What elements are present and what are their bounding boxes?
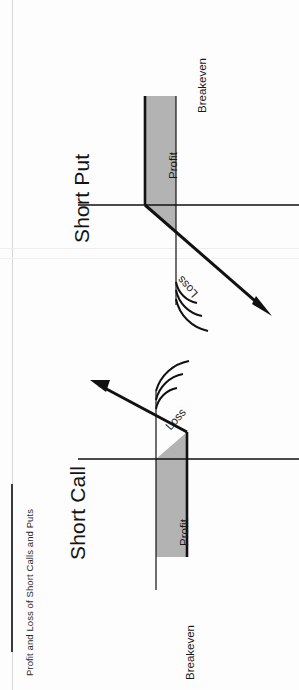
short-call-profit-label: Profit [178, 519, 190, 546]
short-put-payoff-slope [145, 205, 262, 307]
chart-title-short-call: Short Call [66, 466, 90, 560]
short-call-chart [78, 361, 299, 590]
charts-vector-layer [0, 0, 299, 690]
figure-caption: Profit and Loss of Short Calls and Puts [24, 509, 35, 676]
figure-page: Profit and Loss of Short Calls and Puts … [0, 0, 299, 690]
short-put-profit-label: Profit [167, 152, 179, 179]
short-put-breakeven-label: Breakeven [196, 58, 208, 113]
short-call-angle-arc-2 [156, 374, 183, 400]
short-put-angle-arc-3 [176, 299, 208, 331]
chart-title-short-put: Short Put [70, 154, 94, 243]
short-call-angle-arc-3 [156, 361, 189, 391]
short-put-arrowhead [252, 296, 272, 316]
short-call-breakeven-label: Breakeven [184, 625, 196, 680]
